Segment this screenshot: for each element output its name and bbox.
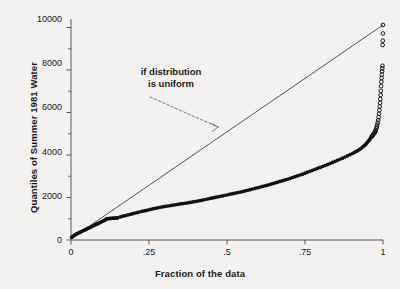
plot-canvas xyxy=(0,0,400,289)
quantile-plot-figure: Quantiles of Summer 1981 Water Fraction … xyxy=(0,0,400,289)
data-series-filled-markers xyxy=(70,136,373,240)
x-axis-ticks xyxy=(71,240,383,245)
data-series-open-markers xyxy=(370,23,385,138)
annotation-arrow xyxy=(150,97,218,132)
uniform-reference-line xyxy=(71,25,383,239)
y-axis-ticks xyxy=(67,28,72,241)
